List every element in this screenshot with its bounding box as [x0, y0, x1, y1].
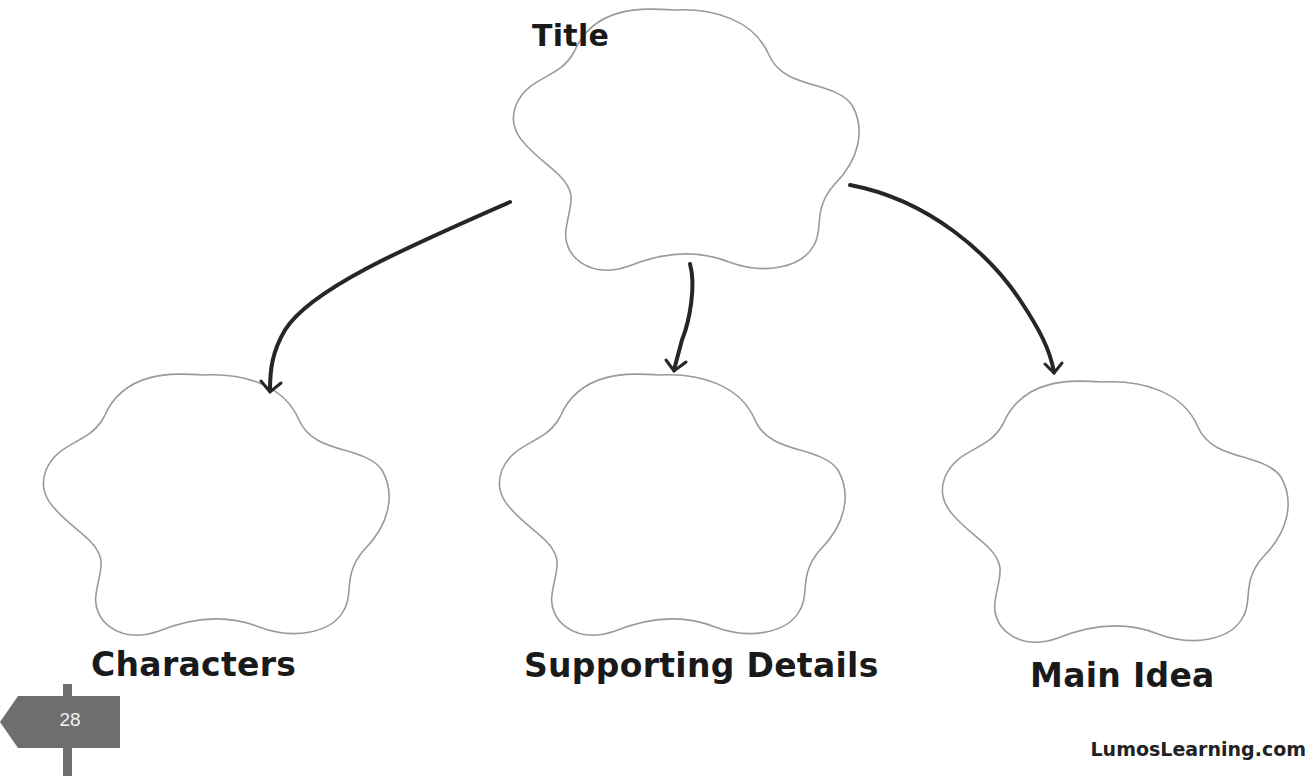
page-number: 28 — [52, 709, 88, 731]
arrow-to-characters-icon — [261, 202, 510, 392]
flower-main-idea[interactable] — [942, 381, 1288, 642]
label-title: Title — [532, 18, 609, 53]
brand-footer: LumosLearning.com — [1091, 738, 1306, 760]
flower-supporting-details[interactable] — [499, 374, 845, 635]
flower-characters[interactable] — [43, 374, 389, 635]
label-main-idea: Main Idea — [1030, 656, 1215, 695]
arrow-to-supporting-details-icon — [666, 264, 692, 371]
label-characters: Characters — [91, 645, 296, 684]
arrow-to-main-idea-icon — [850, 185, 1062, 373]
label-supporting-details: Supporting Details — [524, 646, 879, 685]
